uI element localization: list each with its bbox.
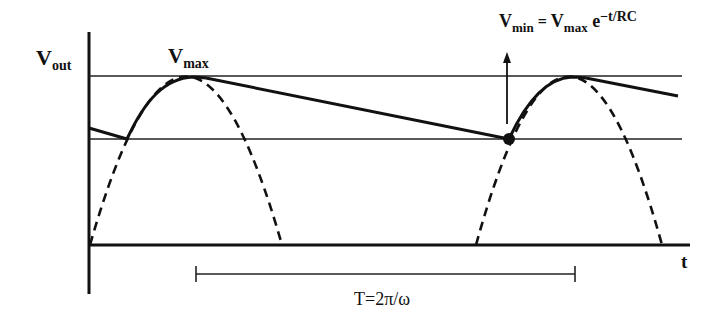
vmax-label-sub: max: [183, 56, 209, 71]
output-waveform-decay-1: [206, 78, 509, 139]
formula-label: Vmin = Vmax e−t/RC: [499, 9, 637, 35]
vmin-point-marker: [503, 133, 515, 145]
formula-e: e: [588, 11, 601, 31]
output-waveform-rise-1: [127, 77, 206, 139]
x-axis-label: t: [681, 251, 688, 272]
formula-v1-sub: min: [512, 20, 534, 35]
formula-exponent: −t/RC: [600, 9, 637, 24]
vmax-label: Vmax: [168, 44, 209, 71]
y-axis-label-main: V: [36, 45, 52, 70]
formula-v2: V: [551, 11, 564, 31]
rectified-wave-dashed-1: [90, 77, 282, 246]
formula-v2-sub: max: [564, 20, 588, 35]
rectifier-ripple-diagram: Vout Vmax Vmin = Vmax e−t/RC t T=2π/ω: [0, 0, 717, 324]
output-waveform-initial-decay: [89, 128, 127, 139]
formula-v1: V: [499, 11, 512, 31]
rectified-wave-dashed-2: [476, 77, 662, 246]
period-label: T=2π/ω: [354, 289, 410, 309]
formula-equals: =: [534, 13, 551, 30]
arrow-up-icon: [503, 52, 511, 63]
output-waveform-decay-2: [586, 78, 678, 96]
y-axis-label: Vout: [36, 45, 72, 73]
output-waveform-rise-2: [509, 77, 586, 139]
y-axis-label-sub: out: [52, 58, 72, 73]
vmax-label-main: V: [168, 44, 183, 68]
